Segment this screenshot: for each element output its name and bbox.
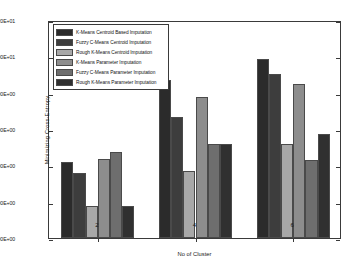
bar xyxy=(110,152,122,238)
bar xyxy=(159,80,171,238)
y-axis-tick-label: 1.00E+01 xyxy=(0,54,15,60)
legend-color-swatch xyxy=(56,59,73,66)
y-axis-tick-mark xyxy=(49,95,53,96)
bar xyxy=(220,144,232,238)
legend-item: Rough K-Means Centroid Imputation xyxy=(56,47,165,57)
legend-item-label: Fuzzy C-Means Centroid Imputation xyxy=(76,40,151,45)
x-axis-title: No of Cluster xyxy=(48,251,341,257)
legend-item-label: K-Means Parameter Imputation xyxy=(76,60,141,65)
legend-color-swatch xyxy=(56,49,73,56)
x-axis-tick-mark xyxy=(98,238,99,242)
legend-item: K-Means Parameter Imputation xyxy=(56,57,165,67)
bar xyxy=(305,160,317,238)
bar xyxy=(98,159,110,238)
bar xyxy=(293,84,305,238)
x-axis-tick-label: 6 xyxy=(290,222,293,228)
x-axis-tick-mark xyxy=(196,238,197,242)
legend: K-Means Centroid Based ImputationFuzzy C… xyxy=(53,24,169,90)
legend-item: Rough K-Means Parameter Imputation xyxy=(56,77,165,87)
y-axis-title: Minimizing Cross-Entropy xyxy=(44,96,50,165)
y-axis-tick-mark xyxy=(49,240,53,241)
x-axis-tick-label: 4 xyxy=(193,222,196,228)
bar xyxy=(61,162,73,238)
legend-color-swatch xyxy=(56,29,73,36)
legend-color-swatch xyxy=(56,79,73,86)
bar xyxy=(208,144,220,238)
y-axis-tick-mark xyxy=(49,131,53,132)
legend-item-label: Rough K-Means Centroid Imputation xyxy=(76,50,152,55)
bar xyxy=(171,117,183,238)
legend-color-swatch xyxy=(56,69,73,76)
bar xyxy=(269,74,281,238)
bar xyxy=(196,97,208,238)
y-axis-tick-label: 8.00E+00 xyxy=(0,91,15,97)
y-axis-tick-mark-right xyxy=(336,204,340,205)
x-axis-tick-label: 2 xyxy=(95,222,98,228)
y-axis-tick-mark-right xyxy=(336,131,340,132)
legend-item: Fuzzy C-Means Centroid Imputation xyxy=(56,37,165,47)
bar xyxy=(122,206,134,238)
y-axis-tick-mark-right xyxy=(336,22,340,23)
bar xyxy=(73,173,85,238)
y-axis-tick-label: 6.00E+00 xyxy=(0,127,15,133)
legend-item-label: K-Means Centroid Based Imputation xyxy=(76,30,152,35)
legend-item-label: Rough K-Means Parameter Imputation xyxy=(76,80,156,85)
y-axis-tick-label: 4.00E+00 xyxy=(0,163,15,169)
legend-item-label: Fuzzy C-Means Parameter Imputation xyxy=(76,70,155,75)
y-axis-tick-mark xyxy=(49,22,53,23)
y-axis-tick-label: 1.20E+01 xyxy=(0,18,15,24)
bar xyxy=(257,59,269,238)
y-axis-tick-mark-right xyxy=(336,240,340,241)
y-axis-tick-mark-right xyxy=(336,95,340,96)
y-axis-tick-mark xyxy=(49,204,53,205)
y-axis-tick-label: 0.00E+00 xyxy=(0,236,15,242)
legend-color-swatch xyxy=(56,39,73,46)
y-axis-tick-label: 2.00E+00 xyxy=(0,200,15,206)
x-axis-tick-mark xyxy=(293,238,294,242)
legend-item: K-Means Centroid Based Imputation xyxy=(56,27,165,37)
y-axis-tick-mark xyxy=(49,167,53,168)
y-axis-tick-mark-right xyxy=(336,167,340,168)
legend-item: Fuzzy C-Means Parameter Imputation xyxy=(56,67,165,77)
y-axis-tick-mark-right xyxy=(336,58,340,59)
bar-chart-figure: Minimizing Cross-Entropy 0.00E+002.00E+0… xyxy=(0,0,360,274)
bar xyxy=(318,134,330,238)
